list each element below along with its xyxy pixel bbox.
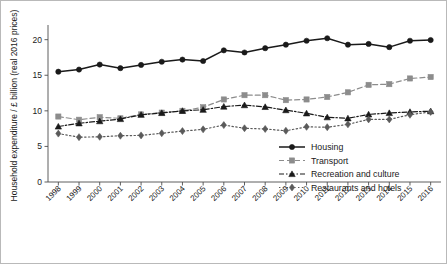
data-point-marker <box>428 74 433 79</box>
data-point-marker <box>304 38 309 43</box>
data-point-marker <box>263 46 268 51</box>
legend-label: Housing <box>311 142 343 152</box>
data-point-marker <box>263 93 268 98</box>
y-axis-title: Household expenditure / £ billion (real … <box>9 9 19 201</box>
data-point-marker <box>221 48 226 53</box>
x-tick-label: 2000 <box>85 184 104 203</box>
data-point-marker <box>304 97 309 102</box>
data-point-marker <box>283 42 288 47</box>
x-tick-label: 2016 <box>416 184 435 203</box>
data-point-marker <box>366 41 371 46</box>
series-line <box>58 105 430 126</box>
legend-item-transport[interactable]: Transport <box>279 156 349 166</box>
legend-label: Transport <box>311 156 349 166</box>
data-point-marker <box>345 42 350 47</box>
data-point-marker <box>221 97 226 102</box>
legend-label: Restaurants and hotels <box>311 183 402 193</box>
data-point-marker <box>56 130 61 137</box>
data-point-marker <box>118 132 123 139</box>
data-point-marker <box>97 62 102 67</box>
data-point-marker <box>283 98 288 103</box>
data-point-marker <box>325 124 330 131</box>
x-tick-label: 2006 <box>209 184 228 203</box>
x-tick-label: 2010 <box>292 184 311 203</box>
data-point-marker <box>325 94 330 99</box>
x-tick-label: 2008 <box>251 184 270 203</box>
data-point-marker <box>97 133 102 140</box>
x-tick-label: 1999 <box>64 184 83 203</box>
legend-item-housing[interactable]: Housing <box>279 142 343 152</box>
data-point-marker <box>56 114 61 119</box>
data-point-marker <box>289 184 294 191</box>
x-tick-label: 2004 <box>168 184 187 203</box>
data-point-marker <box>387 45 392 50</box>
data-point-marker <box>428 108 433 115</box>
y-tick-label: 20 <box>33 35 43 45</box>
data-point-marker <box>345 90 350 95</box>
data-point-marker <box>325 36 330 41</box>
data-point-marker <box>138 132 143 139</box>
data-point-marker <box>263 125 268 132</box>
data-point-marker <box>345 121 350 128</box>
data-point-marker <box>201 58 206 63</box>
data-point-marker <box>242 50 247 55</box>
line-chart: 05101520Household expenditure / £ billio… <box>1 1 447 264</box>
data-point-marker <box>387 116 392 123</box>
data-point-marker <box>118 66 123 71</box>
data-point-marker <box>289 144 294 149</box>
y-tick-label: 5 <box>37 141 42 151</box>
x-tick-label: 2005 <box>189 184 208 203</box>
data-point-marker <box>289 158 294 163</box>
data-point-marker <box>242 125 247 132</box>
series-transport <box>56 74 434 122</box>
data-point-marker <box>201 126 206 133</box>
data-point-marker <box>76 67 81 72</box>
data-point-marker <box>159 130 164 137</box>
y-tick-label: 0 <box>37 177 42 187</box>
data-point-marker <box>283 127 288 134</box>
data-point-marker <box>407 76 412 81</box>
x-tick-label: 2009 <box>271 184 290 203</box>
data-point-marker <box>221 122 226 129</box>
y-tick-label: 10 <box>33 106 43 116</box>
data-point-marker <box>304 123 309 130</box>
y-tick-label: 15 <box>33 70 43 80</box>
data-point-marker <box>180 128 185 135</box>
legend-item-recreation-and-culture[interactable]: Recreation and culture <box>279 169 400 179</box>
series-housing <box>56 36 434 75</box>
data-point-marker <box>407 38 412 43</box>
legend-label: Recreation and culture <box>311 169 400 179</box>
chart-figure: 05101520Household expenditure / £ billio… <box>0 0 447 264</box>
series-restaurants-and-hotels <box>56 108 434 140</box>
x-tick-label: 2002 <box>127 184 146 203</box>
data-point-marker <box>428 37 433 42</box>
x-tick-label: 2001 <box>106 184 125 203</box>
data-point-marker <box>56 69 61 74</box>
x-tick-label: 2003 <box>147 184 166 203</box>
series-line <box>58 77 430 120</box>
x-tick-label: 1998 <box>44 184 63 203</box>
data-point-marker <box>76 134 81 141</box>
data-point-marker <box>387 82 392 87</box>
data-point-marker <box>138 62 143 67</box>
data-point-marker <box>159 59 164 64</box>
x-tick-label: 2007 <box>230 184 249 203</box>
data-point-marker <box>366 82 371 87</box>
data-point-marker <box>242 93 247 98</box>
legend: HousingTransportRecreation and cultureRe… <box>279 142 402 193</box>
data-point-marker <box>180 57 185 62</box>
